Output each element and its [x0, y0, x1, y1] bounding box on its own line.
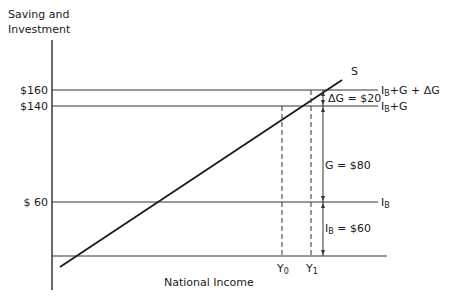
y-tick-140: $140: [20, 100, 48, 113]
arrowhead: [321, 107, 325, 112]
ib-annotation: IB = $60: [325, 222, 371, 236]
y-tick-60: $ 60: [24, 196, 49, 209]
g-annotation: G = $80: [325, 159, 371, 172]
x-tick-y0: Y0: [276, 262, 289, 276]
y-tick-160: $160: [20, 84, 48, 97]
label-ib-g-dg: IB+G + ΔG: [381, 84, 440, 98]
x-tick-y1: Y1: [305, 262, 318, 276]
x-axis-label: National Income: [164, 276, 254, 289]
delta-g-annotation: ΔG = $20: [328, 92, 381, 105]
label-ib-g: IB+G: [381, 100, 408, 114]
saving-line-label: S: [351, 65, 358, 78]
saving-investment-chart: Saving and Investment $160 $140 $ 60 S Δ…: [0, 0, 449, 304]
arrowhead: [321, 100, 325, 105]
y-axis-label-line1: Saving and: [8, 8, 69, 21]
arrowhead: [321, 250, 325, 255]
arrowhead: [321, 203, 325, 208]
saving-line: [60, 80, 342, 267]
arrowhead: [321, 196, 325, 201]
y-axis-label-line2: Investment: [8, 23, 71, 36]
label-ib: IB: [381, 196, 390, 210]
